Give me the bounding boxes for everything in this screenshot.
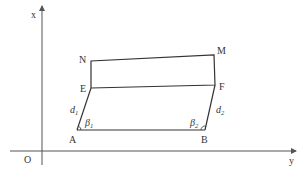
angle-label-beta2: β2: [189, 117, 199, 129]
point-label-N: N: [79, 54, 86, 65]
horizontal-axis-label: y: [289, 155, 294, 166]
point-label-A: A: [69, 134, 77, 145]
point-label-B: B: [201, 134, 208, 145]
origin-label: O: [24, 154, 31, 165]
vertical-axis-label: x: [31, 9, 36, 20]
segment-label-d1: d1: [70, 104, 78, 116]
point-label-E: E: [80, 83, 86, 94]
point-label-M: M: [217, 45, 226, 56]
point-label-F: F: [219, 81, 225, 92]
angle-label-beta1: β1: [84, 117, 93, 129]
rectangle-NMFE: [91, 55, 215, 88]
segment-BF: [205, 85, 215, 130]
segment-label-d2: d2: [216, 104, 225, 116]
diagram-canvas: x y O N M E F A B d1 d2 β1 β2: [0, 0, 302, 178]
